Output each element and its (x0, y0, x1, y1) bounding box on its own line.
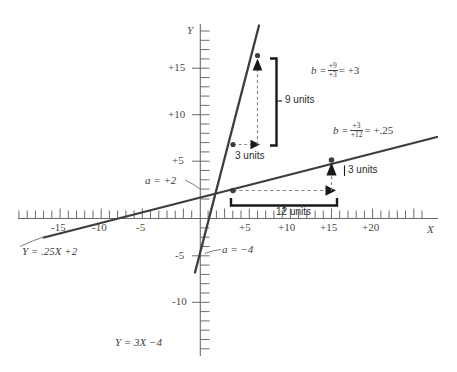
x-tick-label-+20: +20 (362, 222, 379, 233)
x-tick-label-+15: +15 (320, 222, 337, 233)
slope-equation-steep: b =+9+3= +3 (311, 62, 359, 80)
intercept-label-shallow: a = +2 (145, 175, 176, 186)
axis-x (18, 209, 438, 219)
x-tick-label-+10: +10 (278, 222, 295, 233)
slope-equation-shallow: b =+3+12= +.25 (333, 122, 393, 140)
slope-eq-shallow-fraction: +3+12 (350, 122, 364, 140)
graph-plot (0, 0, 457, 372)
x-tick-label--10: -10 (92, 222, 107, 233)
slope-eq-shallow-result: = +.25 (364, 124, 393, 136)
three-units-label-steep: 3 units (235, 151, 264, 161)
y-axis-label: Y (187, 25, 193, 36)
steep-rise-annotation (253, 53, 263, 145)
slope-eq-shallow-prefix: b = (333, 124, 349, 136)
y-tick-label-+10: +10 (168, 109, 185, 120)
slope-eq-steep-prefix: b = (311, 64, 327, 76)
y-tick-label-+5: +5 (172, 155, 184, 166)
leader-a-plus-2 (185, 180, 200, 189)
y-tick-label--5: -5 (175, 250, 184, 261)
slope-eq-steep-denominator: +3 (328, 71, 338, 80)
y-tick-label--10: -10 (172, 296, 187, 307)
steep-run-annotation (230, 140, 260, 149)
three-units-label-shallow: 3 units (348, 165, 377, 175)
x-tick-label--5: -5 (136, 222, 145, 233)
x-tick-label--15: -15 (51, 222, 66, 233)
slope-eq-shallow-denominator: +12 (350, 131, 364, 140)
nine-units-bracket (270, 59, 277, 146)
figure-canvas: -15 -10 -5 +5 +10 +15 +20 +15 +10 +5 -5 … (0, 0, 457, 372)
slope-eq-steep-result: = +3 (339, 64, 360, 76)
nine-units-label: 9 units (285, 95, 314, 105)
x-tick-label-+5: +5 (239, 222, 251, 233)
intercept-label-steep: a = −4 (222, 244, 253, 255)
x-axis-label: X (427, 224, 434, 235)
twelve-units-bracket (231, 198, 337, 206)
leader-a-minus-4 (205, 250, 221, 254)
slope-eq-steep-fraction: +9+3 (328, 62, 338, 80)
equation-label-shallow: Y = .25X +2 (22, 246, 77, 257)
equation-label-steep: Y = 3X −4 (115, 337, 162, 348)
axis-y (192, 24, 210, 356)
line-steep (195, 26, 259, 273)
y-tick-label-+15: +15 (168, 62, 185, 73)
twelve-units-label: 12 units (276, 207, 311, 217)
